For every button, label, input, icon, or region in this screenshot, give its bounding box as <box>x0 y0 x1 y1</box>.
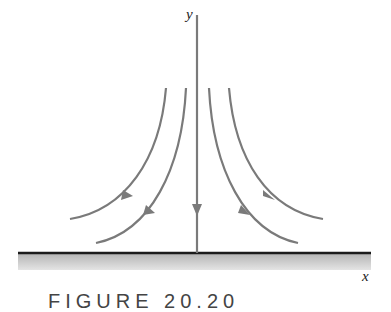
figure-caption: FIGURE 20.20 <box>48 290 239 312</box>
x-axis-label: x <box>362 268 369 285</box>
streamlines <box>70 15 323 253</box>
streamline-inner-left <box>96 88 186 243</box>
streamline-outer-left <box>70 88 166 219</box>
y-axis-label: y <box>186 6 193 23</box>
wall-shading <box>18 254 371 270</box>
arrow-down-left-icon <box>143 205 155 215</box>
streamline-outer-right <box>229 88 323 219</box>
arrow-down-icon <box>192 204 202 216</box>
streamline-inner-right <box>209 88 298 243</box>
arrow-down-left-icon <box>121 190 133 200</box>
